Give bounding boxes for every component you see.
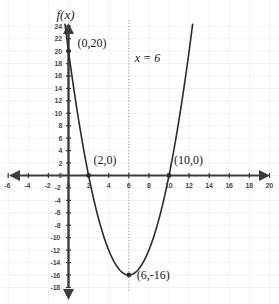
y-tick-8: 8: [59, 122, 63, 129]
y-tick-4: 4: [59, 147, 63, 154]
y-tick-18: 18: [55, 60, 62, 67]
y-tick--18: -18: [51, 284, 61, 291]
x-tick-6: 6: [127, 182, 131, 189]
y-tick--4: -4: [55, 197, 61, 204]
point-label-y-intercept: (0,20): [78, 37, 107, 49]
y-tick--12: -12: [51, 247, 61, 254]
point-label-root-right: (10,0): [174, 154, 203, 166]
x-tick-14: 14: [205, 182, 212, 189]
x-tick-12: 12: [185, 182, 192, 189]
axis-of-symmetry-label: x = 6: [135, 52, 160, 64]
y-tick--2: -2: [55, 184, 61, 191]
plot-canvas: [0, 0, 279, 304]
y-axis-label: f(x): [57, 8, 75, 21]
y-tick--8: -8: [55, 222, 61, 229]
x-tick-20: 20: [266, 182, 273, 189]
point-label-root-left: (2,0): [94, 154, 117, 166]
y-tick-16: 16: [55, 72, 62, 79]
y-tick-12: 12: [55, 97, 62, 104]
y-tick-22: 22: [55, 35, 62, 42]
point-label-vertex: (6,-16): [137, 269, 170, 281]
y-tick-0: 0: [59, 172, 63, 179]
x-tick-10: 10: [165, 182, 172, 189]
x-tick-4: 4: [107, 182, 111, 189]
y-tick-14: 14: [55, 85, 62, 92]
x-tick-16: 16: [225, 182, 232, 189]
y-tick-6: 6: [59, 135, 63, 142]
x-tick-0: 0: [67, 182, 71, 189]
x-tick-8: 8: [147, 182, 151, 189]
x-tick-18: 18: [246, 182, 253, 189]
x-tick-2: 2: [87, 182, 91, 189]
y-tick-24: 24: [55, 23, 62, 30]
y-tick-2: 2: [59, 160, 63, 167]
function-graph: f(x) x = 6 -6-4-2024681012141618202224 2…: [0, 0, 279, 304]
x-tick--2: -2: [45, 182, 51, 189]
y-tick-20: 20: [55, 48, 62, 55]
x-tick--4: -4: [24, 182, 30, 189]
x-tick--6: -6: [4, 182, 10, 189]
grid-lines: [0, 0, 279, 304]
y-tick--6: -6: [55, 209, 61, 216]
y-tick--14: -14: [51, 259, 61, 266]
y-tick--16: -16: [51, 272, 61, 279]
y-tick--10: -10: [51, 234, 61, 241]
y-tick-10: 10: [55, 110, 62, 117]
